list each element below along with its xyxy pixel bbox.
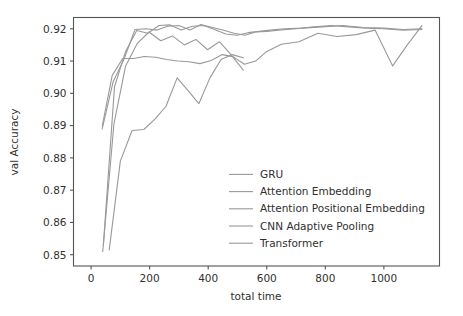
- x-tick-label: 600: [257, 272, 277, 284]
- plot-axes: [74, 18, 440, 267]
- y-tick-label: 0.86: [43, 216, 67, 228]
- y-axis-ticks: 0.850.860.870.880.890.900.910.92: [43, 23, 73, 261]
- legend-label-4: Transformer: [259, 237, 324, 249]
- x-axis-ticks: 02004006008001000: [88, 266, 398, 284]
- y-tick-label: 0.89: [43, 119, 66, 131]
- legend-label-0: GRU: [260, 168, 283, 180]
- x-tick-label: 400: [198, 272, 218, 284]
- x-tick-label: 800: [315, 272, 335, 284]
- y-tick-label: 0.85: [43, 249, 66, 261]
- series-line-attention-embedding: [102, 25, 422, 129]
- chart-legend: GRUAttention EmbeddingAttention Position…: [229, 168, 425, 249]
- x-tick-label: 200: [140, 272, 160, 284]
- y-tick-label: 0.92: [43, 23, 66, 35]
- series-lines: [102, 25, 422, 252]
- x-axis-title: total time: [230, 290, 281, 302]
- x-tick-label: 1000: [371, 272, 398, 284]
- y-tick-label: 0.88: [43, 152, 66, 164]
- series-line-gru: [103, 32, 244, 251]
- plot-frame: [74, 18, 440, 267]
- chart-figure: 02004006008001000 0.850.860.870.880.890.…: [0, 0, 463, 316]
- y-axis-title: val Accuracy: [8, 109, 20, 176]
- legend-label-2: Attention Positional Embedding: [260, 202, 425, 214]
- series-line-transformer: [109, 55, 243, 250]
- y-tick-label: 0.90: [43, 87, 66, 99]
- series-line-cnn-adaptive-pooling: [102, 26, 422, 127]
- x-tick-label: 0: [88, 272, 95, 284]
- line-chart: 02004006008001000 0.850.860.870.880.890.…: [0, 0, 463, 316]
- legend-label-3: CNN Adaptive Pooling: [260, 220, 374, 232]
- y-tick-label: 0.91: [43, 55, 66, 67]
- y-tick-label: 0.87: [43, 184, 66, 196]
- legend-label-1: Attention Embedding: [260, 185, 371, 197]
